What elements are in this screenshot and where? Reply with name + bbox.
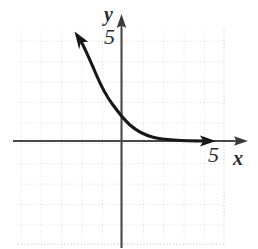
x-axis-label: x <box>233 148 243 168</box>
x-axis-tick-label-5: 5 <box>208 144 219 166</box>
y-axis-label: y <box>104 4 113 24</box>
graph-figure: y x 5 5 <box>0 0 258 249</box>
coordinate-plane-svg <box>0 0 258 249</box>
y-axis-tick-label-5: 5 <box>104 26 115 48</box>
